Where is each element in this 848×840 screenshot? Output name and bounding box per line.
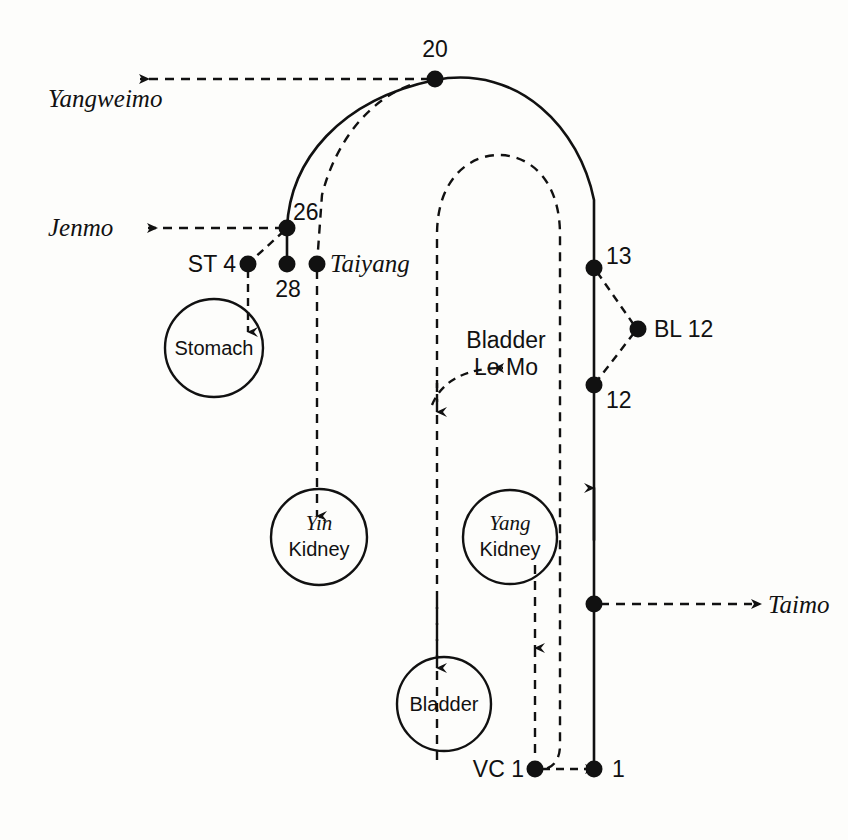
label-organ-yang-kidney-line2: Kidney bbox=[479, 538, 540, 560]
node-dot-bl12[interactable] bbox=[630, 321, 647, 338]
node-dot-vc1[interactable] bbox=[527, 761, 544, 778]
label-point-12: 12 bbox=[606, 387, 632, 413]
label-point-20: 20 bbox=[422, 36, 448, 62]
label-point-vc1: VC 1 bbox=[473, 756, 524, 782]
meridian-diagram-canvas: 20 26 28 ST 4 Taiyang Yangweimo Jenmo 13… bbox=[0, 0, 848, 840]
st4-connector-dashed bbox=[251, 231, 284, 261]
label-point-1: 1 bbox=[612, 756, 625, 782]
yang-kidney-organ-circle bbox=[463, 490, 557, 584]
label-jenmo: Jenmo bbox=[48, 214, 113, 241]
label-point-28: 28 bbox=[275, 276, 301, 302]
meridian-diagram-svg: 20 26 28 ST 4 Taiyang Yangweimo Jenmo 13… bbox=[0, 0, 848, 840]
label-bladder-lo-mo-line2: Lo Mo bbox=[474, 354, 538, 380]
label-yangweimo: Yangweimo bbox=[48, 85, 162, 112]
bl12-lower-connector bbox=[597, 333, 634, 381]
label-taiyang: Taiyang bbox=[330, 250, 410, 277]
node-dot-13[interactable] bbox=[586, 260, 603, 277]
inner-dashed-loop-left-leg bbox=[437, 155, 560, 770]
node-dot-28[interactable] bbox=[279, 256, 296, 273]
yin-kidney-organ-circle bbox=[271, 489, 367, 585]
node-dot-st4[interactable] bbox=[240, 256, 257, 273]
node-dot-taiyang[interactable] bbox=[309, 256, 326, 273]
taiyang-branch-dashed-path bbox=[317, 85, 410, 264]
label-organ-stomach: Stomach bbox=[175, 337, 254, 359]
node-dot-12[interactable] bbox=[586, 377, 603, 394]
label-point-st4: ST 4 bbox=[188, 251, 236, 277]
label-taimo: Taimo bbox=[768, 591, 830, 618]
node-dot-taimo-junction[interactable] bbox=[586, 596, 603, 613]
label-point-26: 26 bbox=[293, 199, 319, 225]
label-organ-yin-kidney-line2: Kidney bbox=[288, 538, 349, 560]
bl12-upper-connector bbox=[597, 272, 634, 325]
label-point-13: 13 bbox=[606, 243, 632, 269]
label-organ-yang-kidney-line1: Yang bbox=[489, 511, 530, 535]
label-point-bl12: BL 12 bbox=[654, 316, 713, 342]
label-organ-yin-kidney-line1: Yin bbox=[306, 511, 332, 535]
label-bladder-lo-mo-line1: Bladder bbox=[466, 327, 546, 353]
main-meridian-solid-path bbox=[287, 78, 594, 768]
label-organ-bladder: Bladder bbox=[410, 693, 479, 715]
node-dot-1[interactable] bbox=[586, 761, 603, 778]
node-dot-20[interactable] bbox=[427, 71, 444, 88]
